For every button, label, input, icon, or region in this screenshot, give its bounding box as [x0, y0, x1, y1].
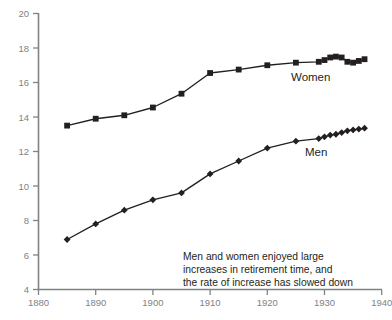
data-point	[264, 62, 270, 68]
data-point	[179, 91, 185, 97]
x-tick-label-1880: 1880	[28, 297, 49, 308]
data-point	[339, 55, 345, 61]
summary-note-line-3: the rate of increase has slowed down	[183, 277, 353, 288]
data-point	[315, 135, 322, 142]
x-tick-label-1910: 1910	[200, 297, 221, 308]
y-tick-label-14: 14	[18, 112, 29, 123]
y-axis-ticks	[33, 14, 39, 290]
data-point	[150, 196, 157, 203]
chart-canvas: 20 18 16 14 12 10 8 6 4 1880 1890 1900 1…	[0, 0, 392, 320]
series-men	[64, 125, 368, 243]
data-point	[361, 125, 368, 132]
x-tick-label-1900: 1900	[142, 297, 163, 308]
data-point	[293, 60, 299, 66]
data-point	[293, 138, 300, 145]
data-point	[344, 59, 350, 65]
series-label-women: Women	[291, 71, 330, 83]
data-point	[338, 129, 345, 136]
data-point	[356, 58, 362, 64]
data-point	[333, 54, 339, 60]
data-point	[121, 207, 128, 214]
series-women-line	[67, 57, 364, 126]
summary-note: Men and women enjoyed large increases in…	[183, 251, 353, 288]
y-tick-label-18: 18	[18, 43, 29, 54]
retirement-time-chart: 20 18 16 14 12 10 8 6 4 1880 1890 1900 1…	[0, 0, 392, 320]
data-point	[316, 59, 322, 65]
y-tick-label-20: 20	[18, 8, 29, 19]
data-point	[355, 126, 362, 133]
y-tick-label-4: 4	[24, 284, 29, 295]
x-tick-label-1920: 1920	[257, 297, 278, 308]
data-point	[322, 57, 328, 63]
data-point	[333, 131, 340, 138]
x-tick-label-1940: 1940	[371, 297, 392, 308]
data-point	[207, 70, 213, 76]
data-point	[92, 221, 99, 228]
data-point	[64, 236, 71, 243]
y-tick-label-6: 6	[24, 250, 29, 261]
series-label-men: Men	[305, 146, 327, 158]
data-point	[93, 116, 99, 122]
y-tick-label-8: 8	[24, 215, 29, 226]
data-point	[327, 132, 334, 139]
data-point	[344, 127, 351, 134]
data-point	[64, 123, 70, 129]
data-point	[235, 158, 242, 165]
data-point	[121, 112, 127, 118]
y-axis-tick-labels: 20 18 16 14 12 10 8 6 4	[18, 8, 29, 295]
data-point	[327, 55, 333, 61]
x-tick-label-1890: 1890	[85, 297, 106, 308]
data-point	[150, 105, 156, 111]
summary-note-line-1: Men and women enjoyed large	[183, 251, 324, 262]
y-tick-label-12: 12	[18, 146, 29, 157]
data-point	[350, 60, 356, 66]
data-point	[264, 145, 271, 152]
data-point	[321, 133, 328, 140]
x-axis-ticks	[39, 290, 382, 296]
data-point	[236, 67, 242, 73]
series-men-line	[67, 128, 364, 239]
series-men-markers	[64, 125, 368, 243]
series-women	[64, 54, 367, 129]
chart-axes	[39, 13, 383, 290]
summary-note-line-2: increases in retirement time, and	[183, 264, 333, 275]
x-tick-label-1930: 1930	[314, 297, 335, 308]
data-point	[350, 127, 357, 134]
x-axis-tick-labels: 1880 1890 1900 1910 1920 1930 1940	[28, 297, 392, 308]
y-tick-label-16: 16	[18, 77, 29, 88]
y-tick-label-10: 10	[18, 181, 29, 192]
data-point	[362, 56, 368, 62]
